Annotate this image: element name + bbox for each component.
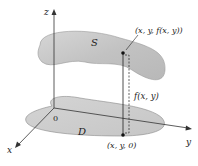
surface-label: S	[91, 37, 98, 48]
base-point	[121, 133, 125, 137]
base-point-label: (x, y, 0)	[107, 141, 136, 150]
surface-s	[38, 31, 165, 80]
surface-point-label: (x, y, f(x, y))	[135, 26, 183, 35]
z-axis-arrow	[52, 9, 57, 15]
x-axis-label: x	[7, 145, 12, 155]
origin-label: 0	[53, 114, 58, 123]
height-label: f(x, y)	[133, 91, 159, 101]
surface-point	[121, 51, 125, 55]
y-axis-label: y	[185, 137, 192, 147]
surface-diagram: z y x 0 S D (x, y, f(x, y)) f(x, y) (x, …	[0, 0, 198, 166]
y-axis-arrow	[186, 126, 193, 131]
region-label: D	[77, 126, 86, 137]
z-axis-label: z	[43, 7, 49, 17]
